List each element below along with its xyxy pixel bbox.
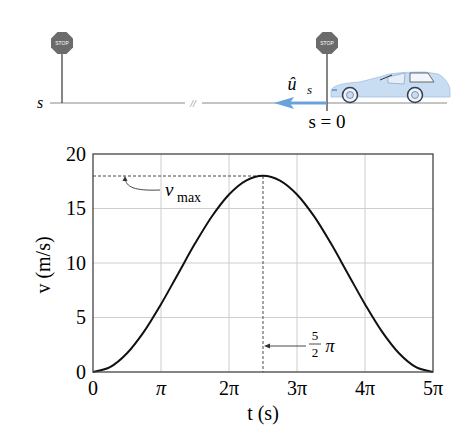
svg-text:STOP: STOP [320,40,334,46]
car-icon [331,72,450,103]
stop-sign-icon: STOP [51,32,73,103]
vmax-label: v [165,179,174,200]
peak-time-symbol: π [325,336,335,356]
svg-text:0: 0 [76,361,86,383]
peak-time-arrowhead-icon [264,344,270,349]
stop-sign-icon: STOP [316,32,338,111]
unit-vector-label: û [288,74,297,94]
svg-text:STOP: STOP [55,40,69,46]
svg-text:5π: 5π [423,377,443,399]
vmax-pointer-icon [125,178,160,190]
road-diagram: // s STOP STOP û s s = 0 [37,32,450,132]
svg-text:5: 5 [76,306,86,328]
break-symbol: // [189,98,197,109]
svg-text:2π: 2π [219,377,239,399]
figure: // s STOP STOP û s s = 0 [0,0,473,438]
vmax-label-subscript: max [177,190,201,205]
peak-time-numerator: 5 [312,328,319,343]
y-tick-labels: 0 5 10 15 20 [66,143,86,383]
position-axis-label: s [37,94,43,111]
svg-text:20: 20 [66,143,86,165]
unit-vector-arrow-icon [274,97,327,109]
unit-vector-subscript: s [307,82,312,97]
velocity-chart: v max 5 2 π 0 5 10 15 20 0 π 2π 3π 4π 5π… [32,143,443,425]
y-axis-label: v (m/s) [32,236,55,293]
svg-text:15: 15 [66,197,86,219]
svg-text:10: 10 [66,252,86,274]
peak-time-denominator: 2 [312,345,319,360]
svg-text:π: π [156,377,167,399]
x-axis-label: t (s) [247,402,279,425]
vmax-arrowhead-icon [123,176,128,181]
svg-text:3π: 3π [287,377,307,399]
origin-label: s = 0 [308,111,345,132]
svg-text:4π: 4π [355,377,375,399]
svg-text:0: 0 [88,377,98,399]
x-tick-labels: 0 π 2π 3π 4π 5π [88,377,443,399]
